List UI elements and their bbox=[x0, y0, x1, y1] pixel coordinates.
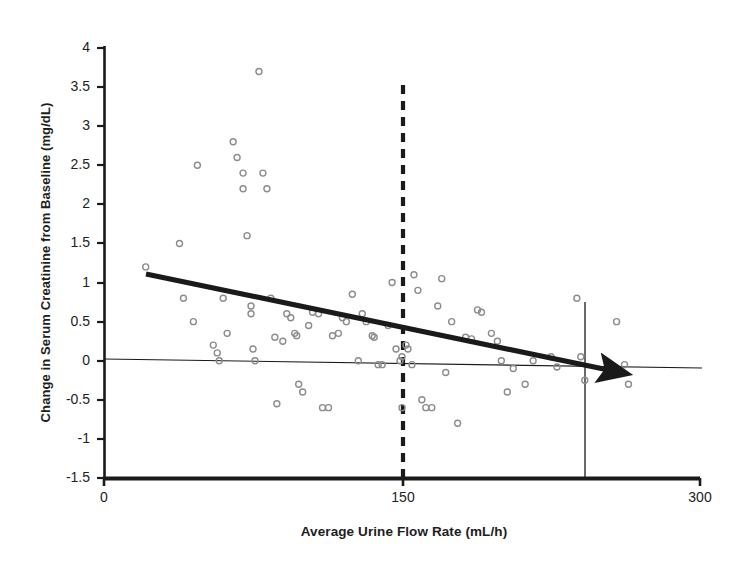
scatter-point bbox=[488, 330, 494, 336]
scatter-point bbox=[455, 420, 461, 426]
scatter-point bbox=[625, 381, 631, 387]
scatter-point bbox=[329, 333, 335, 339]
scatter-point bbox=[578, 354, 584, 360]
scatter-point bbox=[250, 346, 256, 352]
scatter-point bbox=[530, 358, 536, 364]
scatter-point bbox=[210, 342, 216, 348]
scatter-point bbox=[230, 139, 236, 145]
scatter-point bbox=[272, 334, 278, 340]
scatter-point bbox=[214, 350, 220, 356]
scatter-point bbox=[256, 68, 262, 74]
scatter-point bbox=[296, 381, 302, 387]
scatter-point bbox=[574, 295, 580, 301]
scatter-point bbox=[510, 366, 516, 372]
scatter-point bbox=[300, 389, 306, 395]
scatter-point bbox=[419, 397, 425, 403]
scatter-point bbox=[240, 170, 246, 176]
scatter-point bbox=[498, 358, 504, 364]
scatter-point bbox=[443, 369, 449, 375]
scatter-point bbox=[411, 272, 417, 278]
scatter-point-group bbox=[143, 68, 632, 426]
scatter-point bbox=[415, 287, 421, 293]
scatter-point bbox=[194, 162, 200, 168]
plot-canvas bbox=[0, 0, 738, 567]
scatter-point bbox=[306, 323, 312, 329]
scatter-point bbox=[180, 295, 186, 301]
scatter-point bbox=[423, 405, 429, 411]
scatter-point bbox=[244, 233, 250, 239]
xtick-label-0: 0 bbox=[74, 489, 134, 505]
scatter-point bbox=[320, 405, 326, 411]
scatter-point bbox=[176, 240, 182, 246]
scatter-point bbox=[554, 364, 560, 370]
scatter-point bbox=[234, 154, 240, 160]
scatter-point bbox=[409, 362, 415, 368]
scatter-point bbox=[190, 319, 196, 325]
scatter-point bbox=[522, 381, 528, 387]
xtick-label-150: 150 bbox=[373, 489, 433, 505]
scatter-point bbox=[143, 264, 149, 270]
scatter-point bbox=[260, 170, 266, 176]
scatter-point bbox=[240, 186, 246, 192]
scatter-point bbox=[389, 280, 395, 286]
scatter-point bbox=[349, 291, 355, 297]
scatter-point bbox=[494, 338, 500, 344]
scatter-point bbox=[343, 319, 349, 325]
scatter-point bbox=[248, 303, 254, 309]
scatter-point bbox=[393, 346, 399, 352]
scatter-point bbox=[224, 330, 230, 336]
scatter-point bbox=[435, 303, 441, 309]
scatter-point bbox=[429, 405, 435, 411]
scatter-point bbox=[248, 311, 254, 317]
scatter-point bbox=[439, 276, 445, 282]
scatter-point bbox=[280, 338, 286, 344]
xtick-label-300: 300 bbox=[670, 489, 730, 505]
y-axis-title: Change in Serum Creatinine from Baseline… bbox=[38, 48, 53, 478]
scatter-point bbox=[325, 405, 331, 411]
scatter-point bbox=[220, 295, 226, 301]
x-axis-title: Average Urine Flow Rate (mL/h) bbox=[104, 524, 704, 539]
scatter-point bbox=[449, 319, 455, 325]
scatter-point bbox=[335, 330, 341, 336]
y-axis-ticks bbox=[97, 48, 104, 478]
scatter-point bbox=[614, 319, 620, 325]
scatter-point bbox=[264, 186, 270, 192]
scatter-point bbox=[288, 315, 294, 321]
scatter-point bbox=[274, 401, 280, 407]
scatter-point bbox=[379, 362, 385, 368]
scatter-point bbox=[504, 389, 510, 395]
scatter-plot-figure: 4 3.5 3 2.5 2 1.5 1 0.5 0 -0.5 -1 -1.5 0… bbox=[0, 0, 738, 567]
